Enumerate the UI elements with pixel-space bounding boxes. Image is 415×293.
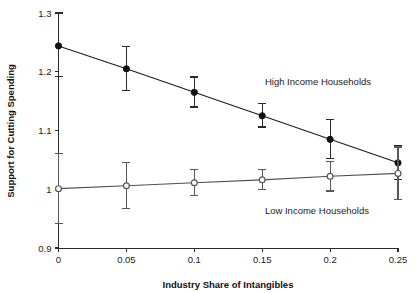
y-tick-label: 1.1 (38, 125, 51, 136)
data-point-marker (259, 177, 265, 183)
data-point-marker (327, 173, 333, 179)
x-tick-label: 0 (56, 254, 61, 265)
series-label-low-income-households: Low Income Households (265, 205, 369, 216)
x-tick-label: 0.15 (253, 254, 272, 265)
y-tick-label: 1 (46, 184, 51, 195)
series-annotations: High Income HouseholdsLow Income Househo… (265, 76, 371, 216)
x-axis-ticks: 00.050.10.150.20.25 (56, 248, 407, 265)
x-tick-label: 0.25 (389, 254, 408, 265)
x-tick-label: 0.05 (117, 254, 136, 265)
y-tick-label: 1.2 (38, 66, 51, 77)
y-tick-label: 1.3 (38, 8, 51, 19)
series-high-income-households (55, 13, 403, 180)
data-point-marker (56, 186, 62, 192)
data-point-marker (191, 89, 197, 95)
data-point-marker (124, 183, 130, 189)
data-point-marker (327, 136, 333, 142)
y-axis-title: Support for Cutting Spending (5, 64, 16, 198)
data-point-marker (123, 66, 129, 72)
data-point-marker (259, 113, 265, 119)
data-point-marker (55, 43, 61, 49)
support-for-cutting-spending-chart: 1.31.21.110.9 00.050.10.150.20.25 High I… (0, 0, 415, 293)
x-tick-label: 0.2 (323, 254, 336, 265)
fit-line (59, 173, 399, 188)
series-layer (55, 13, 403, 224)
y-tick-label: 0.9 (38, 243, 51, 254)
chart-container: 1.31.21.110.9 00.050.10.150.20.25 High I… (0, 0, 415, 293)
x-tick-label: 0.1 (188, 254, 201, 265)
data-point-marker (191, 180, 197, 186)
x-axis-title: Industry Share of Intangibles (163, 279, 294, 290)
data-point-marker (395, 170, 401, 176)
fit-line (59, 46, 399, 163)
series-label-high-income-households: High Income Households (265, 76, 371, 87)
